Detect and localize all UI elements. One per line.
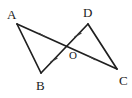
vertex-label-c: C — [119, 73, 128, 88]
geometry-diagram: A B C D O — [0, 0, 132, 98]
segment-AB — [17, 24, 41, 73]
vertex-label-d: D — [83, 5, 92, 20]
vertex-label-a: A — [7, 7, 17, 22]
segment-DB — [41, 24, 88, 73]
vertex-label-b: B — [36, 78, 45, 93]
geometry-figure: A B C D O — [0, 0, 132, 98]
vertex-label-o: O — [69, 49, 77, 61]
